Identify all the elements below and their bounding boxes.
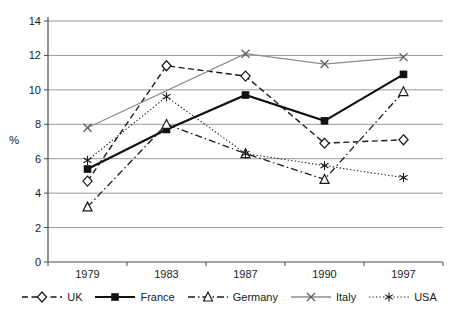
diamond-shape [399, 135, 408, 145]
x-cross-marker [84, 124, 92, 132]
legend-label-uk: UK [67, 291, 82, 303]
legend-sample-italy [291, 291, 331, 303]
square-filled-marker [321, 117, 329, 125]
square-filled-marker [400, 71, 408, 79]
legend-sample-france [95, 291, 135, 303]
asterisk-marker [321, 161, 329, 170]
square-shape [400, 71, 408, 79]
series-italy [84, 50, 408, 132]
y-tick-label: 8 [35, 118, 41, 130]
series-line-uk [88, 66, 404, 181]
asterisk-marker [400, 173, 408, 182]
asterisk-marker [385, 292, 393, 301]
square-filled-marker [84, 165, 92, 173]
x-tick-label: 1987 [233, 268, 257, 280]
diamond-open-marker [38, 292, 47, 302]
legend-item-italy: Italy [291, 291, 356, 303]
asterisk-marker [163, 92, 171, 101]
legend-label-france: France [140, 291, 174, 303]
square-shape [84, 165, 92, 173]
line-chart-figure: 0246810121419791983198719901997 % UKFran… [0, 0, 459, 320]
line-chart-canvas: 0246810121419791983198719901997 [0, 0, 459, 320]
legend-sample-usa [369, 291, 409, 303]
square-shape [112, 293, 120, 301]
x-tick-label: 1997 [391, 268, 415, 280]
legend-label-italy: Italy [336, 291, 356, 303]
square-filled-marker [112, 293, 120, 301]
y-tick-label: 2 [35, 222, 41, 234]
asterisk-shape [84, 156, 92, 165]
legend-item-uk: UK [22, 291, 82, 303]
legend-label-usa: USA [414, 291, 437, 303]
square-shape [321, 117, 329, 125]
legend-sample-germany [188, 291, 228, 303]
y-tick-label: 10 [29, 84, 41, 96]
triangle-open-marker [399, 87, 408, 96]
square-shape [242, 91, 250, 99]
chart-legend: UKFranceGermanyItalyUSA [0, 291, 459, 303]
x-shape [84, 124, 92, 132]
diamond-shape [38, 292, 47, 302]
asterisk-shape [321, 161, 329, 170]
square-filled-marker [242, 91, 250, 99]
y-tick-label: 6 [35, 153, 41, 165]
y-tick-label: 0 [35, 256, 41, 268]
legend-item-germany: Germany [188, 291, 278, 303]
x-tick-label: 1983 [154, 268, 178, 280]
series-line-usa [88, 97, 404, 178]
y-tick-label: 12 [29, 49, 41, 61]
series-line-italy [88, 54, 404, 128]
legend-sample-uk [22, 291, 62, 303]
asterisk-shape [163, 92, 171, 101]
x-tick-label: 1979 [75, 268, 99, 280]
y-tick-label: 14 [29, 15, 41, 27]
series-germany [83, 87, 408, 211]
asterisk-shape [400, 173, 408, 182]
legend-item-usa: USA [369, 291, 437, 303]
legend-label-germany: Germany [233, 291, 278, 303]
asterisk-shape [385, 292, 393, 301]
triangle-shape [399, 87, 408, 96]
series-uk [83, 61, 408, 186]
asterisk-marker [84, 156, 92, 165]
y-tick-label: 4 [35, 187, 41, 199]
series-usa [84, 92, 408, 182]
y-axis-label: % [9, 134, 19, 146]
legend-item-france: France [95, 291, 174, 303]
diamond-open-marker [399, 135, 408, 145]
x-tick-label: 1990 [312, 268, 336, 280]
